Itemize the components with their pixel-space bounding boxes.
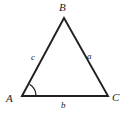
side-label-b: b	[61, 101, 66, 110]
side-label-c: c	[31, 53, 35, 62]
triangle-diagram: B A C c a b	[0, 0, 127, 117]
vertex-label-b: B	[59, 2, 66, 13]
vertex-label-a: A	[6, 93, 13, 104]
vertex-label-c: C	[112, 92, 119, 103]
side-label-a: a	[87, 52, 92, 61]
